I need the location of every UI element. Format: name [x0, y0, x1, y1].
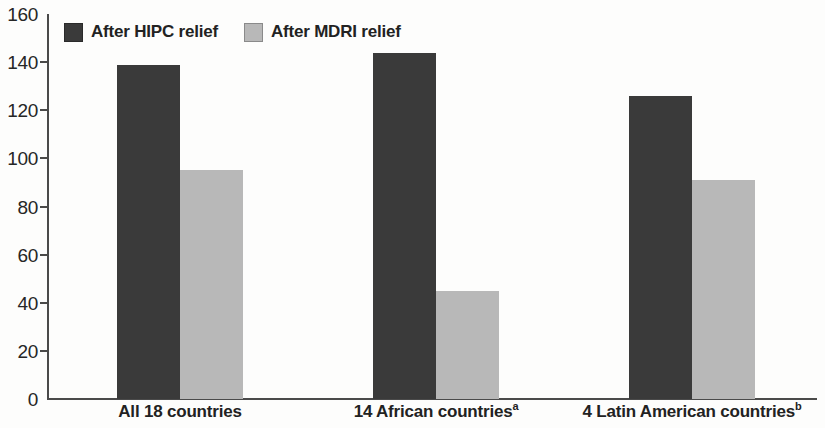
y-axis-tick-label: 120 [7, 101, 38, 120]
y-axis-tick-mark [40, 157, 48, 159]
x-axis-category-label: All 18 countries [118, 403, 241, 422]
footnote-marker: b [795, 400, 802, 412]
bar-mdri [180, 170, 243, 399]
bar-group [561, 14, 817, 399]
y-axis-tick-label: 40 [17, 293, 38, 312]
bar-hipc [117, 65, 180, 399]
legend-label: After HIPC relief [91, 22, 218, 42]
y-axis-tick-mark [40, 254, 48, 256]
legend-swatch-icon [64, 23, 83, 42]
bar-hipc [373, 53, 436, 400]
y-axis-tick-mark [40, 109, 48, 111]
legend-entry: After HIPC relief [64, 22, 218, 42]
legend-entry: After MDRI relief [244, 22, 401, 42]
legend-label: After MDRI relief [271, 22, 401, 42]
x-axis-category-label: 14 African countriesa [354, 403, 519, 422]
y-axis-tick-mark [40, 206, 48, 208]
footnote-marker: a [512, 400, 518, 412]
y-axis-tick-label: 0 [28, 390, 38, 409]
bar-group [49, 14, 305, 399]
x-axis: All 18 countries14 African countriesa4 L… [49, 401, 817, 428]
bar-hipc [629, 96, 692, 399]
y-axis-tick-label: 60 [17, 245, 38, 264]
chart-legend: After HIPC reliefAfter MDRI relief [64, 22, 401, 42]
legend-swatch-icon [244, 23, 263, 42]
y-axis-tick-mark [40, 61, 48, 63]
y-axis-tick-label: 80 [17, 197, 38, 216]
y-axis-tick-label: 100 [7, 149, 38, 168]
x-axis-category-label: 4 Latin American countriesb [583, 403, 802, 422]
y-axis: 020406080100120140160 [0, 0, 44, 428]
y-axis-tick-label: 160 [7, 5, 38, 24]
bar-mdri [436, 291, 499, 399]
y-axis-tick-mark [40, 302, 48, 304]
bar-mdri [692, 180, 755, 399]
y-axis-tick-label: 20 [17, 341, 38, 360]
bar-chart: 020406080100120140160 All 18 countries14… [0, 0, 825, 428]
bar-group [305, 14, 561, 399]
y-axis-tick-label: 140 [7, 53, 38, 72]
y-axis-tick-mark [40, 350, 48, 352]
plot-area [49, 14, 817, 399]
